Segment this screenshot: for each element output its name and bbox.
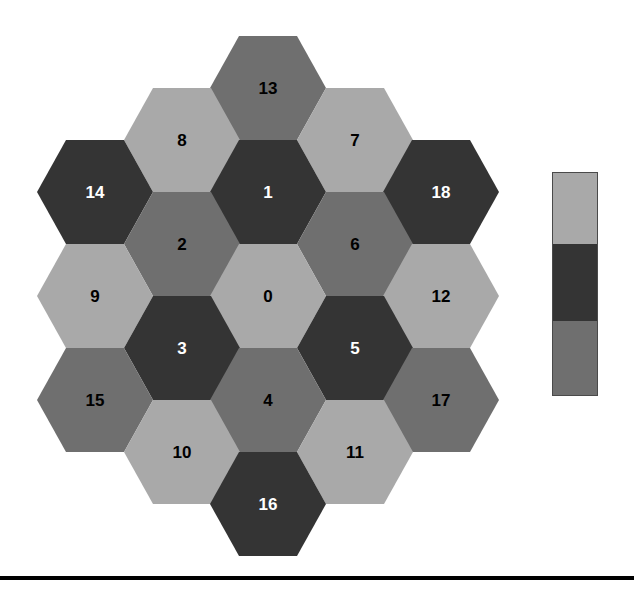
colorbar-segment-dark — [553, 244, 597, 321]
figure-canvas: 1387141182690123515417101116 — [0, 0, 634, 592]
colorbar-segment-light — [553, 173, 597, 244]
baseline-divider — [0, 576, 634, 580]
colorbar-segment-medium — [553, 321, 597, 396]
colorbar — [552, 172, 598, 396]
hex-grid-svg: 1387141182690123515417101116 — [0, 0, 634, 592]
